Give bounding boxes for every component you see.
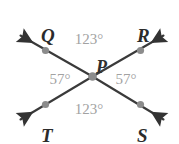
point-label-p: P	[96, 58, 107, 76]
geometry-diagram: Q R T S P 123° 123° 57° 57°	[0, 0, 179, 144]
point-label-s: S	[137, 126, 148, 144]
angle-label-left: 57°	[50, 72, 71, 87]
point-marker-r	[137, 47, 144, 54]
angle-label-top: 123°	[75, 32, 104, 47]
point-marker-q	[42, 47, 49, 54]
angle-label-right: 57°	[116, 72, 137, 87]
point-marker-t	[42, 101, 49, 108]
point-label-r: R	[137, 26, 150, 45]
diagram-canvas	[0, 0, 179, 144]
angle-label-bottom: 123°	[75, 102, 104, 117]
point-label-t: T	[41, 126, 53, 144]
point-label-q: Q	[41, 26, 55, 45]
point-marker-s	[137, 101, 144, 108]
